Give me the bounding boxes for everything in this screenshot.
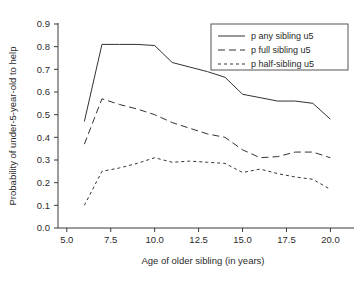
y-tick-label: 0.3 (37, 154, 50, 165)
legend-label-1: p any sibling u5 (251, 31, 314, 41)
y-tick-label: 0.9 (37, 18, 50, 29)
y-tick-label: 0.6 (37, 86, 50, 97)
series-line-2 (84, 99, 330, 158)
y-axis-ticks: 0.00.10.20.30.40.50.60.70.80.9 (37, 18, 58, 233)
y-axis-title: Probability of under-5-year-old to help (7, 47, 18, 206)
y-tick-label: 0.2 (37, 177, 50, 188)
line-chart: 0.00.10.20.30.40.50.60.70.80.9 5.07.510.… (0, 0, 363, 285)
x-tick-label: 20.0 (321, 234, 340, 245)
x-tick-label: 15.0 (233, 234, 252, 245)
legend-label-2: p full sibling u5 (251, 45, 311, 55)
y-tick-label: 0.0 (37, 222, 50, 233)
legend-label-3: p half-sibling u5 (251, 59, 314, 69)
y-tick-label: 0.1 (37, 200, 50, 211)
x-tick-label: 5.0 (60, 234, 73, 245)
y-tick-label: 0.8 (37, 41, 50, 52)
x-tick-label: 12.5 (189, 234, 208, 245)
x-axis-title: Age of older sibling (in years) (141, 255, 264, 266)
x-tick-label: 7.5 (104, 234, 117, 245)
y-tick-label: 0.4 (37, 132, 50, 143)
x-tick-label: 10.0 (145, 234, 164, 245)
x-axis-ticks: 5.07.510.012.515.017.520.0 (60, 228, 339, 245)
chart-figure: 0.00.10.20.30.40.50.60.70.80.9 5.07.510.… (0, 0, 363, 285)
y-tick-label: 0.5 (37, 109, 50, 120)
chart-legend: p any sibling u5p full sibling u5p half-… (211, 24, 348, 70)
y-tick-label: 0.7 (37, 64, 50, 75)
x-tick-label: 17.5 (277, 234, 296, 245)
series-line-3 (84, 158, 330, 206)
